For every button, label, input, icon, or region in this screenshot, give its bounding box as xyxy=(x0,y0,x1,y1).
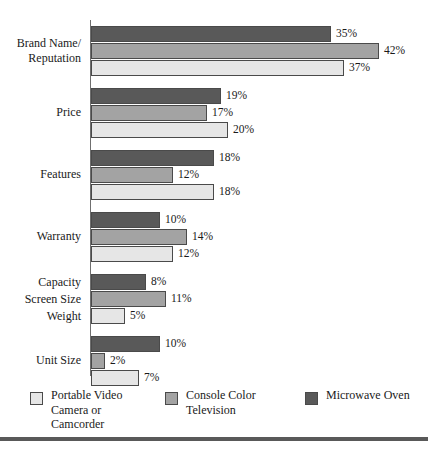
legend-swatch-icon xyxy=(30,392,43,405)
bar-value-label: 42% xyxy=(384,42,405,58)
plot-area: 35%42%37%Brand Name/Reputation19%17%20%P… xyxy=(0,0,428,382)
bar-row: 10% xyxy=(0,336,428,352)
grouped-bar-chart: 35%42%37%Brand Name/Reputation19%17%20%P… xyxy=(0,0,428,449)
bar-value-label: 7% xyxy=(144,369,159,385)
category-label: Unit Size xyxy=(0,353,81,368)
bar-value-label: 18% xyxy=(219,183,240,199)
bar xyxy=(91,167,173,183)
bar-row: 20% xyxy=(0,122,428,138)
bar xyxy=(91,43,379,59)
bar-value-label: 5% xyxy=(130,307,145,323)
legend-swatch-icon xyxy=(165,392,178,405)
bar-value-label: 2% xyxy=(110,352,125,368)
bar xyxy=(91,212,160,228)
bar xyxy=(91,26,331,42)
bar xyxy=(91,229,187,245)
bar xyxy=(91,246,173,262)
bar xyxy=(91,353,105,369)
bar-value-label: 37% xyxy=(349,59,370,75)
bar xyxy=(91,274,146,290)
bar-row: 18% xyxy=(0,150,428,166)
category-label: Warranty xyxy=(0,229,81,244)
category-label: Reputation xyxy=(0,51,81,66)
bar xyxy=(91,60,344,76)
bar-row: 12% xyxy=(0,246,428,262)
bar-value-label: 10% xyxy=(165,335,186,351)
bar xyxy=(91,122,228,138)
bar-row: 18% xyxy=(0,184,428,200)
bar xyxy=(91,150,214,166)
bottom-divider-rule xyxy=(0,437,428,441)
bar xyxy=(91,308,125,324)
bar-value-label: 12% xyxy=(178,245,199,261)
bar-value-label: 20% xyxy=(233,121,254,137)
bar-value-label: 10% xyxy=(165,211,186,227)
bar-row: 19% xyxy=(0,88,428,104)
legend-swatch-icon xyxy=(305,392,318,405)
bar xyxy=(91,184,214,200)
bar-value-label: 19% xyxy=(226,87,247,103)
category-label: Brand Name/ xyxy=(0,36,81,51)
bar-row: 10% xyxy=(0,212,428,228)
bar xyxy=(91,105,207,121)
category-label: Features xyxy=(0,167,81,182)
category-label: Price xyxy=(0,105,81,120)
bar xyxy=(91,370,139,386)
bar-value-label: 17% xyxy=(212,104,233,120)
legend-label: Microwave Oven xyxy=(326,388,428,403)
bar xyxy=(91,336,160,352)
bar-row: 7% xyxy=(0,370,428,386)
category-label: Capacity xyxy=(0,275,81,290)
bar-value-label: 8% xyxy=(151,273,166,289)
chart-legend: Portable Video Camera or CamcorderConsol… xyxy=(0,388,428,436)
category-label: Screen Size xyxy=(0,292,81,307)
bar xyxy=(91,291,166,307)
bar xyxy=(91,88,221,104)
bar-value-label: 11% xyxy=(171,290,192,306)
bar-value-label: 14% xyxy=(192,228,213,244)
bar-value-label: 18% xyxy=(219,149,240,165)
category-label: Weight xyxy=(0,309,81,324)
bar-value-label: 35% xyxy=(336,25,357,41)
legend-label: Portable Video Camera or Camcorder xyxy=(51,388,171,432)
bar-value-label: 12% xyxy=(178,166,199,182)
legend-label: Console Color Television xyxy=(186,388,306,417)
